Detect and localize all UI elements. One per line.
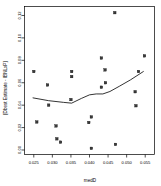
- y-tick-label: 0.12: [17, 11, 22, 20]
- scatter-plot-figure: 0.0250.0300.0350.0400.0450.0500.055 0.00…: [0, 0, 161, 186]
- data-point: [114, 143, 117, 146]
- data-point: [70, 98, 73, 101]
- data-point: [56, 138, 59, 141]
- data-point: [35, 121, 38, 124]
- data-point: [90, 147, 93, 150]
- data-point: [55, 125, 58, 128]
- data-point: [135, 104, 138, 107]
- data-point: [90, 116, 93, 119]
- x-tick-label: 0.030: [47, 160, 58, 165]
- y-tick-label: 0.10: [17, 33, 22, 42]
- y-axis-tick-labels: 0.000.020.040.060.080.100.12: [17, 11, 22, 154]
- data-point: [113, 11, 116, 14]
- data-point: [87, 121, 90, 124]
- chart-canvas: 0.0250.0300.0350.0400.0450.0500.055 0.00…: [0, 0, 161, 186]
- data-point: [59, 141, 62, 144]
- data-point: [137, 70, 140, 73]
- x-tick-label: 0.040: [84, 160, 95, 165]
- plot-frame: [25, 7, 155, 155]
- y-tick-label: 0.02: [17, 123, 22, 132]
- data-point: [134, 90, 137, 93]
- x-tick-label: 0.055: [140, 160, 151, 165]
- y-axis-title: [Dbest Estimate - IBNLxP]: [3, 61, 8, 114]
- x-axis-title: medD: [84, 178, 97, 183]
- trend-line: [33, 72, 143, 104]
- x-axis-tick-labels: 0.0250.0300.0350.0400.0450.0500.055: [29, 160, 151, 165]
- x-tick-label: 0.045: [103, 160, 114, 165]
- data-point: [143, 55, 146, 58]
- x-tick-label: 0.035: [66, 160, 77, 165]
- data-point: [100, 57, 103, 60]
- data-point: [32, 70, 35, 73]
- data-point: [70, 70, 73, 73]
- data-point: [46, 84, 49, 87]
- y-tick-label: 0.00: [17, 145, 22, 154]
- y-tick-label: 0.04: [17, 100, 22, 109]
- data-point: [104, 69, 107, 72]
- x-axis-ticks: [34, 155, 145, 158]
- data-point: [70, 75, 73, 78]
- data-point: [100, 86, 103, 89]
- data-point: [47, 104, 50, 107]
- y-axis-ticks: [22, 15, 25, 150]
- x-tick-label: 0.025: [29, 160, 40, 165]
- y-tick-label: 0.08: [17, 56, 22, 65]
- data-point: [104, 81, 107, 84]
- y-tick-label: 0.06: [17, 78, 22, 87]
- x-tick-label: 0.050: [122, 160, 133, 165]
